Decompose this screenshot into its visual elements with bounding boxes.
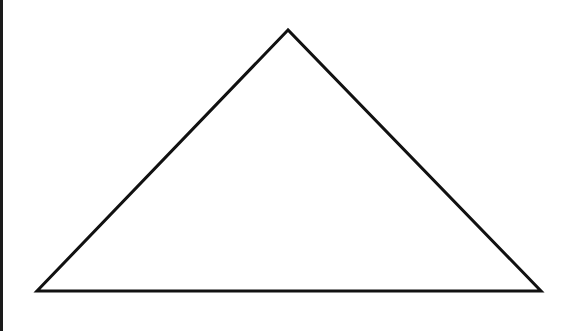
triangle-shape xyxy=(37,30,541,291)
triangle-diagram xyxy=(0,0,569,331)
diagram-canvas: triangle xyxy=(0,0,569,331)
